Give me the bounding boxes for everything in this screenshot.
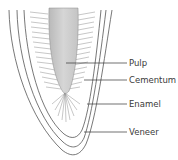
label-pulp: Pulp	[129, 58, 147, 68]
pulp-shape	[49, 8, 78, 93]
label-enamel: Enamel	[129, 99, 161, 109]
leader-lines	[66, 63, 127, 132]
label-veneer: Veneer	[129, 127, 159, 137]
label-cementum: Cementum	[129, 75, 176, 85]
